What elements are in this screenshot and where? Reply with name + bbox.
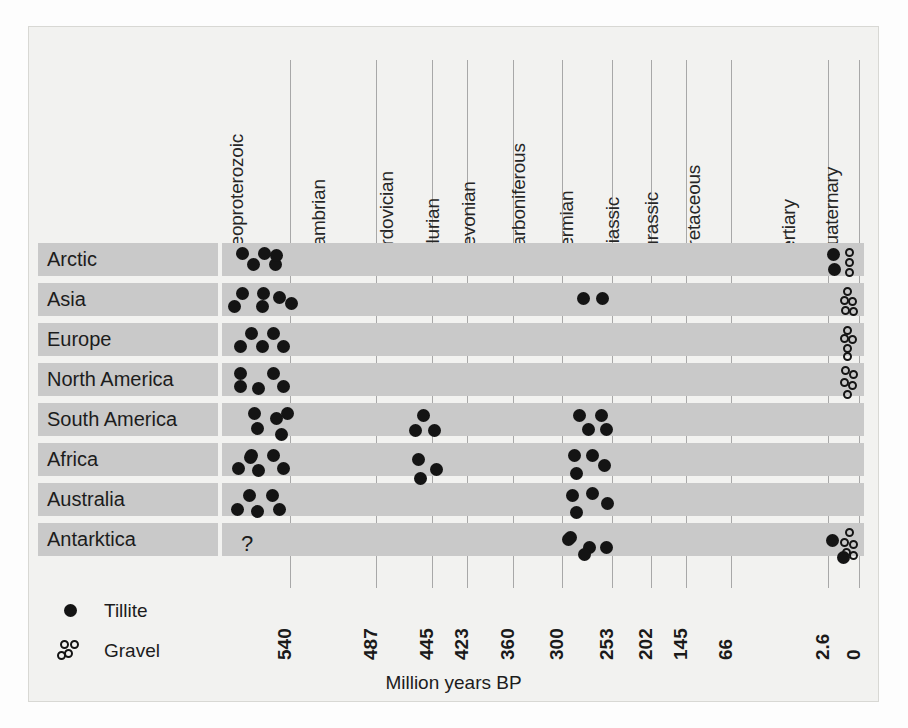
tillite-marker xyxy=(600,541,613,554)
gravel-marker xyxy=(845,248,854,257)
tillite-marker xyxy=(243,489,256,502)
gravel-marker xyxy=(845,528,854,537)
gravel-marker xyxy=(840,538,849,547)
tillite-marker xyxy=(236,287,249,300)
gravel-marker xyxy=(849,307,858,316)
tillite-marker xyxy=(232,462,245,475)
tillite-marker xyxy=(414,472,427,485)
tillite-marker xyxy=(281,407,294,420)
legend-tillite-icon xyxy=(64,604,77,617)
tillite-marker xyxy=(570,467,583,480)
tillite-marker xyxy=(573,409,586,422)
row-label-south-america: South America xyxy=(38,403,218,436)
tillite-marker xyxy=(234,380,247,393)
tillite-marker xyxy=(598,459,611,472)
tillite-marker xyxy=(827,248,840,261)
tillite-marker xyxy=(277,340,290,353)
tillite-marker xyxy=(277,380,290,393)
tillite-marker xyxy=(570,506,583,519)
row-band xyxy=(222,523,864,556)
tillite-marker xyxy=(244,451,257,464)
row-label-antarktica: Antarktica xyxy=(38,523,218,556)
x-axis-title: Million years BP xyxy=(29,672,878,694)
tillite-marker xyxy=(256,300,269,313)
tillite-marker xyxy=(828,263,841,276)
gravel-marker xyxy=(845,258,854,267)
tillite-marker xyxy=(270,249,283,262)
tillite-marker xyxy=(234,367,247,380)
tillite-marker xyxy=(245,327,258,340)
tillite-marker xyxy=(409,424,422,437)
tillite-marker xyxy=(601,497,614,510)
tick-label-145: 145 xyxy=(670,628,692,660)
tillite-marker xyxy=(600,423,613,436)
tick-label-2.6: 2.6 xyxy=(812,634,834,660)
tick-label-202: 202 xyxy=(635,628,657,660)
tick-label-0: 0 xyxy=(843,649,865,660)
tillite-marker xyxy=(252,464,265,477)
tillite-marker xyxy=(267,449,280,462)
tillite-marker xyxy=(275,428,288,441)
tick-label-487: 487 xyxy=(360,628,382,660)
tillite-marker xyxy=(267,367,280,380)
legend-gravel-icon xyxy=(60,640,69,649)
tillite-marker xyxy=(266,489,279,502)
chart-plate: NeoproterozoicCambrianOrdovicianSilurian… xyxy=(28,26,879,702)
legend-tillite-label: Tillite xyxy=(104,600,148,622)
gravel-marker xyxy=(843,390,852,399)
period-label-neoproterozoic: Neoproterozoic xyxy=(226,134,248,260)
tillite-marker xyxy=(417,409,430,422)
gravel-marker xyxy=(849,551,858,560)
row-band xyxy=(222,363,864,396)
gravel-marker xyxy=(849,370,858,379)
tillite-marker xyxy=(412,453,425,466)
tillite-marker xyxy=(267,327,280,340)
tillite-marker xyxy=(428,424,441,437)
tillite-marker xyxy=(258,247,271,260)
row-band xyxy=(222,403,864,436)
tick-label-423: 423 xyxy=(451,628,473,660)
tillite-marker xyxy=(586,487,599,500)
gravel-marker xyxy=(848,297,857,306)
tillite-marker xyxy=(252,382,265,395)
row-label-arctic: Arctic xyxy=(38,243,218,276)
tillite-marker xyxy=(257,287,270,300)
tillite-marker xyxy=(826,534,839,547)
tick-label-540: 540 xyxy=(274,628,296,660)
row-band xyxy=(222,243,864,276)
tillite-marker xyxy=(582,423,595,436)
tillite-marker xyxy=(273,503,286,516)
gravel-marker xyxy=(843,352,852,361)
row-label-asia: Asia xyxy=(38,283,218,316)
legend-gravel-icon xyxy=(70,640,79,649)
tick-label-300: 300 xyxy=(546,628,568,660)
gravel-marker xyxy=(849,540,858,549)
tillite-marker xyxy=(568,449,581,462)
row-band xyxy=(222,283,864,316)
tillite-marker xyxy=(586,449,599,462)
gravel-marker xyxy=(848,335,857,344)
legend-gravel-label: Gravel xyxy=(104,640,160,662)
tillite-marker xyxy=(595,409,608,422)
tillite-marker xyxy=(566,489,579,502)
tick-label-360: 360 xyxy=(497,628,519,660)
tillite-marker xyxy=(256,340,269,353)
row-label-europe: Europe xyxy=(38,323,218,356)
tillite-marker xyxy=(247,258,260,271)
tillite-marker xyxy=(236,247,249,260)
tillite-marker xyxy=(430,463,443,476)
tillite-marker xyxy=(231,503,244,516)
tillite-marker xyxy=(251,422,264,435)
tillite-marker xyxy=(251,505,264,518)
row-band xyxy=(222,483,864,516)
tillite-marker xyxy=(596,292,609,305)
geologic-glaciation-chart: NeoproterozoicCambrianOrdovicianSilurian… xyxy=(0,0,908,728)
gravel-marker xyxy=(843,287,852,296)
tick-label-445: 445 xyxy=(416,628,438,660)
tillite-marker xyxy=(277,462,290,475)
tick-label-253: 253 xyxy=(596,628,618,660)
gravel-marker xyxy=(845,268,854,277)
row-label-north-america: North America xyxy=(38,363,218,396)
tillite-marker xyxy=(578,548,591,561)
tillite-marker xyxy=(285,297,298,310)
